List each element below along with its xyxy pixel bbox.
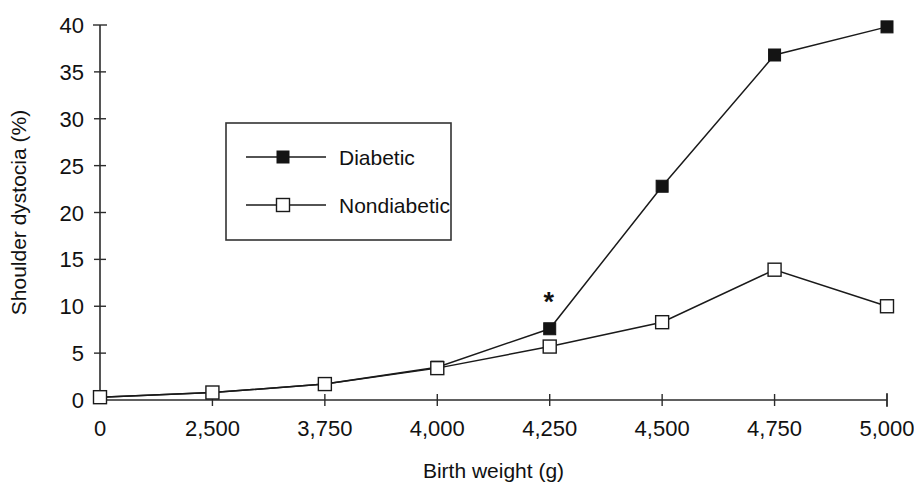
data-point-diabetic-4,750: [769, 49, 781, 61]
y-tick-label-40: 40: [60, 13, 84, 38]
data-point-diabetic-4,500: [656, 180, 668, 192]
legend-marker-diabetic: [277, 151, 289, 163]
legend-label-diabetic: Diabetic: [339, 146, 415, 169]
line-chart: 051015202530354002,5003,7504,0004,2504,5…: [0, 0, 914, 498]
y-tick-label-0: 0: [72, 388, 84, 413]
legend-box: [226, 123, 451, 240]
data-point-nondiabetic-5,000: [881, 300, 894, 313]
legend-label-nondiabetic: Nondiabetic: [339, 194, 450, 217]
legend-marker-nondiabetic: [277, 199, 290, 212]
y-tick-label-5: 5: [72, 341, 84, 366]
y-tick-label-15: 15: [60, 247, 84, 272]
y-tick-label-25: 25: [60, 154, 84, 179]
x-tick-label-5,000: 5,000: [859, 416, 914, 441]
y-axis-title: Shoulder dystocia (%): [7, 110, 30, 315]
x-tick-label-0: 0: [94, 416, 106, 441]
x-tick-label-2,500: 2,500: [185, 416, 240, 441]
data-point-diabetic-4,250: [544, 323, 556, 335]
significance-asterisk: *: [543, 287, 554, 317]
x-tick-label-4,750: 4,750: [747, 416, 802, 441]
chart-page: 051015202530354002,5003,7504,0004,2504,5…: [0, 0, 914, 498]
data-point-diabetic-5,000: [881, 21, 893, 33]
data-point-nondiabetic-4,750: [768, 263, 781, 276]
y-tick-label-20: 20: [60, 201, 84, 226]
data-point-nondiabetic-4,000: [431, 362, 444, 375]
x-tick-label-4,000: 4,000: [410, 416, 465, 441]
y-tick-label-35: 35: [60, 60, 84, 85]
y-tick-label-10: 10: [60, 294, 84, 319]
data-point-nondiabetic-2,500: [206, 386, 219, 399]
data-point-nondiabetic-3,750: [318, 378, 331, 391]
x-tick-label-4,500: 4,500: [635, 416, 690, 441]
data-point-nondiabetic-4,500: [656, 316, 669, 329]
y-tick-label-30: 30: [60, 107, 84, 132]
x-tick-label-3,750: 3,750: [297, 416, 352, 441]
series-line-nondiabetic: [100, 270, 887, 398]
series-line-diabetic: [100, 27, 887, 397]
data-point-nondiabetic-4,250: [543, 340, 556, 353]
data-point-nondiabetic-0: [94, 391, 107, 404]
x-tick-label-4,250: 4,250: [522, 416, 577, 441]
x-axis-title: Birth weight (g): [423, 459, 564, 482]
